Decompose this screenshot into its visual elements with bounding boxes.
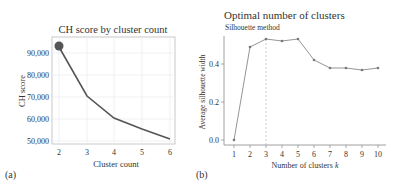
y-tick: 90,000 [27, 49, 49, 58]
panel-a-y-ticks: 90,000 80,000 70,000 60,000 50,000 [27, 49, 49, 146]
x-tick: 3 [85, 148, 89, 157]
x-tick: 4 [112, 148, 116, 157]
x-tick: 6 [312, 150, 316, 159]
panel-a-x-ticks: 2 3 4 5 6 [57, 148, 172, 157]
panel-b-series-line [234, 39, 378, 140]
x-tick: 2 [248, 150, 252, 159]
panel-a-y-label: CH score [17, 75, 27, 107]
y-tick: 70,000 [27, 93, 49, 102]
panel-a-x-label: Cluster count [93, 159, 139, 169]
x-tick: 2 [57, 148, 61, 157]
panel-b-subtitle: Silhouette method [225, 23, 280, 32]
x-tick: 7 [328, 150, 332, 159]
panel-b-title: Optimal number of clusters [224, 9, 345, 21]
y-tick: 50,000 [27, 137, 49, 146]
x-tick: 6 [168, 148, 172, 157]
panel-b-x-ticks: 1 2 3 4 5 6 7 8 9 10 [232, 150, 382, 159]
x-tick: 5 [296, 150, 300, 159]
x-tick: 5 [140, 148, 144, 157]
panel-b-y-ticks: 0.4 0.2 0.0 [209, 60, 219, 145]
panel-b: Optimal number of clusters Silhouette me… [196, 9, 386, 181]
x-tick: 9 [360, 150, 364, 159]
panel-a-label: (a) [5, 169, 16, 181]
panel-b-label: (b) [196, 169, 208, 181]
panel-a-title: CH score by cluster count [58, 24, 167, 35]
x-tick: 10 [374, 150, 382, 159]
y-tick: 80,000 [27, 71, 49, 80]
x-tick: 8 [344, 150, 348, 159]
y-tick: 60,000 [27, 115, 49, 124]
x-tick: 1 [232, 150, 236, 159]
y-tick: 0.0 [209, 136, 219, 145]
panel-b-y-label: Average silhouette width [198, 54, 207, 129]
y-tick: 0.2 [209, 98, 219, 107]
x-tick: 3 [264, 150, 268, 159]
y-tick: 0.4 [209, 60, 219, 69]
panel-b-markers [233, 38, 380, 142]
x-tick: 4 [280, 150, 284, 159]
figure: CH score by cluster count 90,000 80,000 … [0, 0, 400, 188]
panel-b-x-label: Number of clusters k [272, 161, 339, 170]
panel-a: CH score by cluster count 90,000 80,000 … [5, 24, 175, 181]
panel-a-highlight-marker [55, 42, 64, 51]
